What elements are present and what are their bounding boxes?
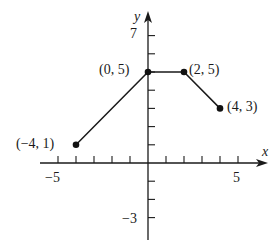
data-point: [181, 69, 188, 76]
data-point: [217, 105, 224, 112]
x-tick-label-max: 5: [233, 170, 240, 185]
data-point: [73, 142, 80, 149]
y-axis-label: y: [132, 9, 141, 24]
data-point: [145, 69, 152, 76]
annotation-neg4-1: (−4, 1): [16, 136, 55, 152]
x-axis-label: x: [261, 144, 269, 159]
y-tick-label-min: −3: [122, 211, 137, 226]
annotation-2-5: (2, 5): [189, 62, 220, 78]
annotation-4-3: (4, 3): [227, 99, 258, 115]
y-tick-label-max: 7: [130, 26, 137, 41]
function-graph: x y −5 5 7 −3 (−4, 1) (0, 5) (2, 5) (4, …: [0, 0, 279, 242]
axes: x y: [40, 9, 269, 240]
x-tick-label-min: −5: [45, 170, 60, 185]
annotation-0-5: (0, 5): [99, 62, 130, 78]
tick-labels: −5 5 7 −3: [45, 26, 240, 226]
